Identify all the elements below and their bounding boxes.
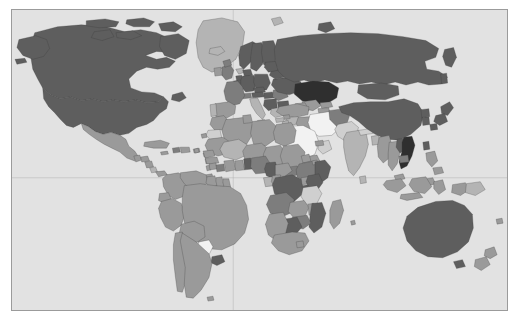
country-austria — [252, 92, 265, 98]
country-haiti — [172, 147, 180, 153]
island-canary — [201, 133, 207, 138]
country-north-korea — [421, 109, 430, 118]
country-taiwan — [423, 141, 430, 150]
country-japan-kyushu — [430, 123, 438, 130]
country-russia — [274, 33, 447, 85]
country-russia-sakhalin — [441, 73, 448, 84]
country-ivory-coast — [224, 160, 236, 172]
country-egypt — [273, 123, 296, 147]
world-map-canvas — [12, 10, 507, 310]
country-lesotho — [296, 241, 304, 248]
island-cape-verde — [194, 148, 199, 153]
country-falklands — [207, 296, 214, 301]
country-dominican-republic — [180, 147, 190, 153]
country-sri-lanka — [359, 176, 366, 184]
country-uae — [315, 140, 324, 146]
country-ireland — [214, 67, 222, 76]
island-mauritius — [351, 220, 356, 225]
country-gambia-guinea — [205, 157, 219, 164]
island-crete — [275, 118, 284, 123]
country-south-korea — [422, 117, 430, 126]
country-sierra-leone — [209, 163, 217, 170]
country-liberia — [216, 164, 225, 172]
world-map-figure — [0, 0, 519, 325]
island-cyprus — [283, 115, 290, 120]
country-portugal — [210, 104, 217, 117]
country-cambodia — [399, 155, 409, 163]
country-fiji — [496, 218, 503, 224]
map-frame — [11, 9, 508, 311]
